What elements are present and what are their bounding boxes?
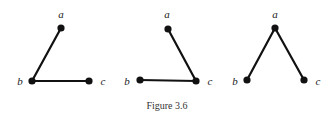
vertex-c xyxy=(192,77,199,84)
graph-panel-3: abc xyxy=(232,8,320,87)
graph-panels: abcabcabc xyxy=(17,8,320,87)
graph-panel-2: abc xyxy=(124,8,212,87)
vertex-label-c: c xyxy=(208,75,213,87)
edge-a-c xyxy=(168,29,196,81)
vertex-label-b: b xyxy=(232,75,238,87)
graph-panel-1: abc xyxy=(17,8,105,87)
vertex-b xyxy=(243,76,250,83)
vertex-label-a: a xyxy=(164,8,170,20)
vertex-c xyxy=(85,77,92,84)
vertex-label-a: a xyxy=(58,8,64,20)
vertex-c xyxy=(300,76,307,83)
vertex-label-b: b xyxy=(17,75,23,87)
vertex-a xyxy=(57,24,64,31)
edge-b-c xyxy=(140,80,196,81)
vertex-b xyxy=(136,76,143,83)
vertex-label-c: c xyxy=(316,75,321,87)
vertex-label-a: a xyxy=(272,8,278,20)
figure-caption: Figure 3.6 xyxy=(146,100,187,111)
figure-3-6: abcabcabc Figure 3.6 xyxy=(0,0,334,113)
vertex-a xyxy=(271,24,278,31)
vertex-label-c: c xyxy=(101,75,106,87)
edge-a-b xyxy=(247,28,275,80)
vertex-b xyxy=(28,77,35,84)
vertex-label-b: b xyxy=(124,75,130,87)
edge-a-b xyxy=(32,28,61,81)
edge-a-c xyxy=(275,28,304,80)
vertex-a xyxy=(164,25,171,32)
